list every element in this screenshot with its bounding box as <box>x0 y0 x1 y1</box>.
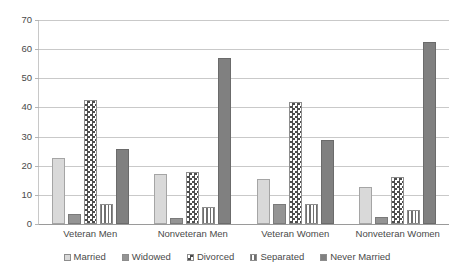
bar-group: Nonveteran Women <box>347 20 450 224</box>
bar-widowed[interactable] <box>68 214 81 224</box>
bar-group-bars <box>142 20 245 224</box>
legend-item-married[interactable]: Married <box>64 252 106 262</box>
bar-nevermarried[interactable] <box>423 42 436 224</box>
legend-swatch-icon <box>250 254 257 261</box>
y-axis-tick-mark <box>35 224 39 225</box>
legend-item-label: Divorced <box>197 252 235 262</box>
legend-item-label: Separated <box>260 252 304 262</box>
y-axis-tick-label: 0 <box>2 219 32 229</box>
bar-separated[interactable] <box>100 204 113 224</box>
y-axis-tick-label: 70 <box>2 15 32 25</box>
bar-group-bars <box>244 20 347 224</box>
chart-legend: MarriedWidowedDivorcedSeparatedNever Mar… <box>0 252 454 262</box>
bar-married[interactable] <box>154 174 167 224</box>
bar-group-bars <box>347 20 450 224</box>
legend-swatch-icon <box>187 254 194 261</box>
y-axis-tick-label: 50 <box>2 73 32 83</box>
bar-chart: Veteran MenNonveteran MenVeteran WomenNo… <box>0 0 454 278</box>
bar-divorced[interactable] <box>289 102 302 224</box>
x-axis-category-label: Veteran Women <box>244 228 347 239</box>
legend-swatch-icon <box>122 254 129 261</box>
bar-widowed[interactable] <box>273 204 286 224</box>
y-axis-tick-label: 40 <box>2 102 32 112</box>
bar-divorced[interactable] <box>186 172 199 224</box>
bar-nevermarried[interactable] <box>116 149 129 224</box>
bar-married[interactable] <box>257 179 270 224</box>
bar-nevermarried[interactable] <box>321 140 334 224</box>
bar-widowed[interactable] <box>170 218 183 224</box>
x-axis-category-label: Veteran Men <box>39 228 142 239</box>
legend-item-label: Widowed <box>132 252 171 262</box>
y-axis-tick-label: 10 <box>2 190 32 200</box>
bar-group: Veteran Men <box>39 20 142 224</box>
legend-item-nevermarried[interactable]: Never Married <box>320 252 390 262</box>
legend-swatch-icon <box>320 254 327 261</box>
bar-married[interactable] <box>52 158 65 224</box>
plot-area: Veteran MenNonveteran MenVeteran WomenNo… <box>38 20 449 225</box>
y-axis-tick-label: 60 <box>2 44 32 54</box>
x-axis-category-label: Nonveteran Men <box>142 228 245 239</box>
legend-item-label: Married <box>74 252 106 262</box>
bar-group-bars <box>39 20 142 224</box>
bar-separated[interactable] <box>407 210 420 224</box>
legend-item-widowed[interactable]: Widowed <box>122 252 171 262</box>
x-axis-category-label: Nonveteran Women <box>347 228 450 239</box>
bar-nevermarried[interactable] <box>218 58 231 224</box>
y-axis-tick-label: 20 <box>2 161 32 171</box>
bar-divorced[interactable] <box>84 100 97 224</box>
bar-widowed[interactable] <box>375 217 388 224</box>
bar-group: Nonveteran Men <box>142 20 245 224</box>
bar-separated[interactable] <box>202 207 215 224</box>
y-axis-tick-label: 30 <box>2 132 32 142</box>
legend-item-divorced[interactable]: Divorced <box>187 252 235 262</box>
bar-group: Veteran Women <box>244 20 347 224</box>
legend-item-separated[interactable]: Separated <box>250 252 304 262</box>
legend-swatch-icon <box>64 254 71 261</box>
bar-separated[interactable] <box>305 204 318 224</box>
bar-married[interactable] <box>359 187 372 224</box>
bar-divorced[interactable] <box>391 177 404 225</box>
legend-item-label: Never Married <box>330 252 390 262</box>
